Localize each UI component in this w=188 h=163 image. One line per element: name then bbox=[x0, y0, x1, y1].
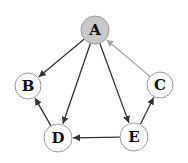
node-label: C bbox=[154, 76, 166, 94]
node-b: B bbox=[15, 73, 41, 99]
nodes-layer: ABCDE bbox=[15, 16, 173, 152]
edge-a-to-b bbox=[39, 39, 85, 77]
node-a: A bbox=[81, 16, 109, 44]
edge-c-to-a bbox=[107, 40, 151, 77]
edge-d-to-b bbox=[35, 98, 51, 126]
graph-diagram: ABCDE bbox=[0, 0, 188, 163]
node-e: E bbox=[120, 123, 148, 151]
edge-e-to-d bbox=[73, 137, 120, 138]
node-label: B bbox=[22, 77, 35, 95]
node-c: C bbox=[147, 72, 173, 98]
node-d: D bbox=[44, 124, 72, 152]
edge-a-to-d bbox=[63, 43, 91, 124]
edge-e-to-c bbox=[140, 98, 153, 125]
node-label: A bbox=[88, 21, 101, 39]
node-label: E bbox=[128, 128, 139, 146]
node-label: D bbox=[51, 129, 64, 147]
